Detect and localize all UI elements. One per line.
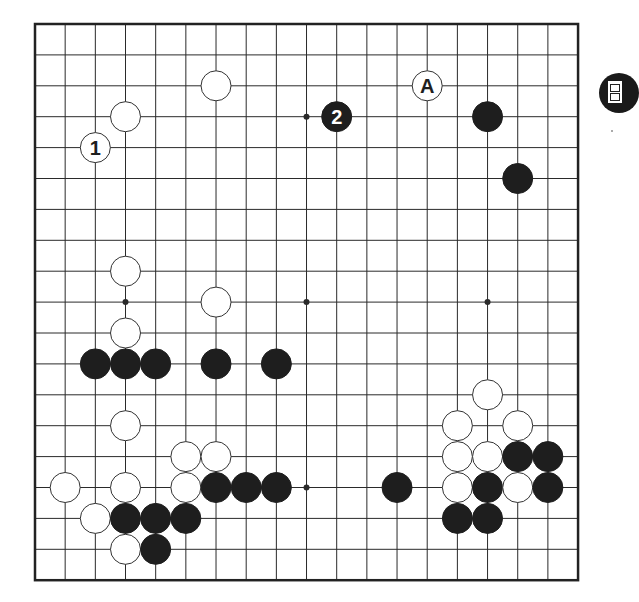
black-stone — [171, 503, 201, 533]
black-stone — [473, 503, 503, 533]
black-stone — [201, 349, 231, 379]
star-point — [123, 299, 129, 305]
white-stone — [50, 473, 80, 503]
black-stone — [111, 503, 141, 533]
star-point — [485, 299, 491, 305]
black-stone — [503, 442, 533, 472]
white-stone — [442, 442, 472, 472]
black-stone — [141, 534, 171, 564]
black-stone — [141, 349, 171, 379]
black-stone — [533, 442, 563, 472]
decorative-dot — [611, 130, 613, 132]
black-stone — [473, 102, 503, 132]
stone-label: 2 — [331, 106, 342, 128]
black-stone — [111, 349, 141, 379]
black-stone — [442, 503, 472, 533]
white-stone — [171, 473, 201, 503]
black-stone — [261, 473, 291, 503]
white-stone — [111, 102, 141, 132]
black-stone — [231, 473, 261, 503]
white-stone — [201, 71, 231, 101]
white-stone — [111, 411, 141, 441]
white-stone — [171, 442, 201, 472]
black-stone — [201, 473, 231, 503]
white-stone — [473, 380, 503, 410]
white-stone — [80, 503, 110, 533]
white-stone — [111, 256, 141, 286]
black-stone — [533, 473, 563, 503]
book-icon — [599, 73, 639, 113]
black-stone — [382, 473, 412, 503]
labeled-white-stone: 1 — [80, 133, 110, 163]
book-icon-glyph — [608, 81, 622, 103]
stone-label: 1 — [90, 137, 101, 159]
white-stone — [503, 411, 533, 441]
white-stone — [201, 287, 231, 317]
black-stone — [80, 349, 110, 379]
star-point — [304, 114, 310, 120]
white-stone — [111, 473, 141, 503]
star-point — [304, 485, 310, 491]
stone-label: A — [420, 75, 434, 97]
white-stone — [442, 411, 472, 441]
white-stone — [473, 442, 503, 472]
white-stone — [201, 442, 231, 472]
black-stone — [503, 164, 533, 194]
white-stone — [111, 534, 141, 564]
white-stone — [442, 473, 472, 503]
labeled-white-stone: A — [412, 71, 442, 101]
labeled-black-stone: 2 — [322, 102, 352, 132]
black-stone — [473, 473, 503, 503]
star-point — [304, 299, 310, 305]
black-stone — [141, 503, 171, 533]
white-stone — [111, 318, 141, 348]
black-stone — [261, 349, 291, 379]
white-stone — [503, 473, 533, 503]
